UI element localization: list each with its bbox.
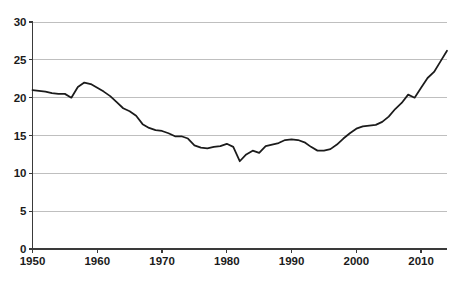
y-tick-label: 15	[14, 130, 27, 142]
y-tick-label: 30	[14, 16, 27, 28]
line-chart: 051015202530 195019601970198019902000201…	[0, 0, 460, 290]
gridlines-group	[33, 22, 448, 211]
series-line	[33, 51, 448, 161]
y-tick-label: 25	[14, 54, 27, 66]
x-tick-label: 1970	[149, 255, 175, 267]
chart-canvas: 051015202530 195019601970198019902000201…	[0, 0, 460, 290]
data-series-group	[33, 51, 448, 161]
x-tick-label: 1980	[214, 255, 240, 267]
x-axis-tick-labels: 1950196019701980199020002010	[20, 255, 434, 267]
y-tick-label: 20	[14, 92, 27, 104]
x-tick-label: 2000	[344, 255, 370, 267]
x-tick-label: 1960	[84, 255, 110, 267]
y-tick-label: 0	[20, 243, 26, 255]
x-tick-label: 1950	[20, 255, 46, 267]
y-tick-label: 5	[20, 205, 27, 217]
y-tick-label: 10	[14, 167, 27, 179]
x-tick-label: 2010	[408, 255, 434, 267]
x-tick-label: 1990	[279, 255, 305, 267]
y-axis-tick-labels: 051015202530	[14, 16, 27, 255]
